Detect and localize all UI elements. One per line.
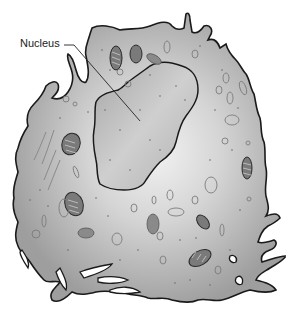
nucleus-label: Nucleus [20, 37, 60, 49]
